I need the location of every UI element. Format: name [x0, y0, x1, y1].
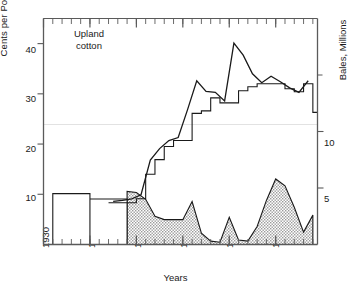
- line-series-market-price: [113, 43, 308, 201]
- line-series-support-price: [109, 84, 318, 203]
- chart-figure: Cents per Pound Bales, Millions 40 30 20…: [0, 0, 351, 289]
- plot-canvas: [0, 0, 351, 289]
- area-series-bales: [127, 179, 313, 245]
- data-layer: [53, 43, 318, 244]
